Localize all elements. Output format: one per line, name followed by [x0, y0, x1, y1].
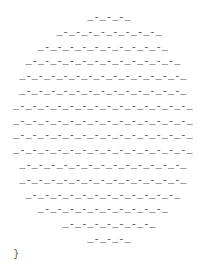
output-line: _-_-_-_-_-_-_-_-_-_-_-_-_-_-_: [13, 128, 193, 143]
output-line: _-_-_-_-_-_-_-_-_-_-_-_-_-_: [13, 69, 193, 84]
output-line: _-_-_-_-_-_-_-_-_-_-_: [13, 40, 193, 55]
output-line: _-_-_-_-_-_-_-_: [13, 217, 193, 232]
output-line: _-_-_-_-_-_-_-_-_-_-_-_-_: [13, 188, 193, 203]
output-line: _-_-_-_: [13, 232, 193, 247]
output-line: _-_-_-_-_-_-_-_-_: [13, 25, 193, 40]
output-line: _-_-_-_-_-_-_-_-_-_-_-_-_-_: [13, 158, 193, 173]
output-line: _-_-_-_-_-_-_-_-_-_-_: [13, 202, 193, 217]
output-line: _-_-_-_-_-_-_-_-_-_-_-_-_-_: [13, 173, 193, 188]
ascii-art-output: _-_-_-_ _-_-_-_-_-_-_-_-_ _-_-_-_-_-_-_-…: [13, 10, 193, 262]
output-line: _-_-_-_: [13, 10, 193, 25]
output-line: _-_-_-_-_-_-_-_-_-_-_-_-_-_: [13, 84, 193, 99]
output-line: _-_-_-_-_-_-_-_-_-_-_-_-_-_-_: [13, 114, 193, 129]
output-line: _-_-_-_-_-_-_-_-_-_-_-_-_-_-_: [13, 99, 193, 114]
output-line: _-_-_-_-_-_-_-_-_-_-_-_-_-_-_: [13, 143, 193, 158]
output-line: _-_-_-_-_-_-_-_-_-_-_-_-_: [13, 54, 193, 69]
closing-brace: }: [13, 247, 193, 262]
